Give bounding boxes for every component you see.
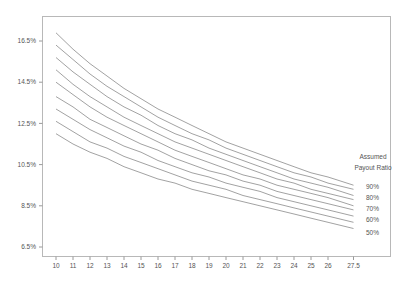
- y-tick-label: 8.5%: [21, 202, 36, 209]
- x-tick-label: 21: [239, 262, 247, 269]
- x-tick-label: 18: [188, 262, 196, 269]
- x-tick-label: 20: [222, 262, 230, 269]
- series-lines: [56, 33, 354, 229]
- series-line-90pct: [56, 33, 354, 185]
- legend-label-80: 80%: [366, 194, 379, 201]
- x-tick-label: 12: [86, 262, 94, 269]
- x-tick-label: 22: [256, 262, 264, 269]
- y-axis: 16.5%14.5%12.5%10.5%8.5%6.5%: [18, 37, 43, 250]
- legend-label-50: 50%: [366, 229, 379, 236]
- series-line-80pct: [56, 58, 354, 196]
- legend-title-line2: Payout Ratio: [354, 164, 392, 172]
- x-tick-label: 26: [324, 262, 332, 269]
- x-tick-label: 10: [52, 262, 60, 269]
- x-tick-label: 11: [70, 262, 77, 269]
- y-tick-label: 6.5%: [21, 243, 36, 250]
- x-tick-label: 27.5: [347, 262, 360, 269]
- legend-label-70: 70%: [366, 205, 379, 212]
- x-axis: 101112131415161718192021222324252627.5: [52, 257, 360, 270]
- series-line-70pct: [56, 82, 354, 206]
- x-tick-label: 19: [205, 262, 213, 269]
- x-tick-label: 25: [307, 262, 315, 269]
- x-tick-label: 13: [103, 262, 111, 269]
- x-tick-label: 23: [273, 262, 281, 269]
- y-tick-label: 10.5%: [18, 161, 37, 168]
- x-tick-label: 24: [290, 262, 298, 269]
- y-tick-label: 12.5%: [18, 120, 37, 127]
- series-line-85pct: [56, 45, 354, 189]
- legend: Assumed Payout Ratio 90% 80% 70% 60% 50%: [354, 153, 392, 236]
- x-tick-label: 16: [154, 262, 162, 269]
- legend-title-line1: Assumed: [359, 153, 386, 160]
- x-tick-label: 17: [171, 262, 179, 269]
- y-tick-label: 14.5%: [18, 78, 37, 85]
- x-tick-label: 15: [137, 262, 145, 269]
- x-tick-label: 14: [120, 262, 128, 269]
- legend-label-90: 90%: [366, 183, 379, 190]
- y-tick-label: 16.5%: [18, 37, 37, 44]
- legend-label-60: 60%: [366, 216, 379, 223]
- line-chart: 16.5%14.5%12.5%10.5%8.5%6.5% 10111213141…: [0, 0, 411, 286]
- series-line-60pct: [56, 109, 354, 216]
- series-line-50pct: [56, 134, 354, 229]
- plot-frame: [43, 17, 391, 257]
